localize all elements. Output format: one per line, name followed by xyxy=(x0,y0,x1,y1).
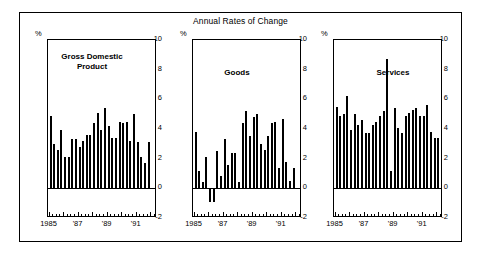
x-tick-major xyxy=(107,212,108,218)
x-tick-minor xyxy=(219,214,220,217)
bar xyxy=(437,138,439,188)
x-tick-minor xyxy=(288,214,289,217)
bar xyxy=(82,141,84,188)
x-tick-minor xyxy=(197,214,198,217)
x-tick-major xyxy=(92,212,93,218)
x-tick-minor xyxy=(277,214,278,217)
bar xyxy=(434,138,436,188)
bar xyxy=(357,125,359,189)
bar xyxy=(441,114,442,188)
x-tick-minor xyxy=(212,214,213,217)
x-tick-label: '87 xyxy=(351,219,377,228)
x-tick-minor xyxy=(414,214,415,217)
bar xyxy=(282,119,284,189)
x-tick-minor xyxy=(70,214,71,217)
x-tick-minor xyxy=(114,214,115,217)
x-tick-minor xyxy=(338,214,339,217)
x-tick-major xyxy=(335,212,336,218)
bar xyxy=(253,117,255,188)
x-tick-minor xyxy=(59,214,60,217)
bar xyxy=(271,123,273,188)
x-tick-major xyxy=(136,212,137,218)
x-tick-minor xyxy=(233,214,234,217)
bar xyxy=(220,176,222,188)
x-tick-minor xyxy=(429,214,430,217)
x-tick-minor xyxy=(244,214,245,217)
bar xyxy=(133,114,135,188)
bar xyxy=(339,116,341,189)
bar xyxy=(278,168,280,189)
bar xyxy=(137,142,139,188)
bar xyxy=(343,114,345,188)
x-tick-minor xyxy=(154,214,155,217)
bar xyxy=(423,116,425,189)
x-tick-minor xyxy=(132,214,133,217)
bar xyxy=(57,150,59,189)
bar xyxy=(336,107,338,189)
bar xyxy=(430,132,432,188)
x-tick-minor xyxy=(143,214,144,217)
x-tick-minor xyxy=(56,214,57,217)
bar xyxy=(202,182,204,188)
bar xyxy=(227,165,229,189)
bar xyxy=(238,182,240,188)
bar-series xyxy=(193,40,300,216)
bar xyxy=(50,116,52,189)
x-tick-minor xyxy=(147,214,148,217)
x-tick-major xyxy=(364,212,365,218)
bar xyxy=(267,136,269,188)
x-tick-minor xyxy=(74,214,75,217)
plot-area xyxy=(333,39,442,217)
x-tick-label: 1985 xyxy=(322,219,348,228)
x-tick-major xyxy=(436,212,437,218)
bar xyxy=(368,133,370,188)
panel-label-services: Services xyxy=(358,68,428,78)
bar xyxy=(401,133,403,188)
x-tick-minor xyxy=(230,214,231,217)
bar xyxy=(245,111,247,188)
x-tick-label: 1985 xyxy=(181,219,207,228)
x-tick-minor xyxy=(400,214,401,217)
x-tick-major xyxy=(393,212,394,218)
bar xyxy=(115,138,117,188)
x-tick-minor xyxy=(81,214,82,217)
x-tick-major xyxy=(208,212,209,218)
x-tick-minor xyxy=(284,214,285,217)
x-tick-minor xyxy=(389,214,390,217)
bar xyxy=(249,136,251,188)
x-tick-minor xyxy=(204,214,205,217)
bar xyxy=(274,122,276,189)
bar xyxy=(260,144,262,189)
bar xyxy=(372,125,374,189)
x-tick-label: '91 xyxy=(409,219,435,228)
bar xyxy=(289,181,291,188)
bar xyxy=(234,153,236,189)
x-tick-major xyxy=(121,212,122,218)
x-tick-minor xyxy=(440,214,441,217)
x-tick-minor xyxy=(356,214,357,217)
x-tick-minor xyxy=(88,214,89,217)
bar xyxy=(397,128,399,189)
bar xyxy=(405,116,407,189)
panel-label-gdp: Gross Domestic Product xyxy=(44,52,140,72)
bar xyxy=(64,157,66,188)
x-tick-minor xyxy=(67,214,68,217)
bar xyxy=(231,153,233,189)
x-tick-minor xyxy=(425,214,426,217)
x-tick-minor xyxy=(263,214,264,217)
x-tick-minor xyxy=(299,214,300,217)
bar xyxy=(386,59,388,188)
x-tick-major xyxy=(252,212,253,218)
x-tick-minor xyxy=(52,214,53,217)
x-tick-minor xyxy=(374,214,375,217)
x-tick-minor xyxy=(270,214,271,217)
bar-series xyxy=(334,40,441,216)
x-tick-minor xyxy=(382,214,383,217)
x-tick-minor xyxy=(125,214,126,217)
bar xyxy=(256,114,258,188)
x-tick-major xyxy=(223,212,224,218)
bar xyxy=(216,151,218,188)
x-tick-label: '91 xyxy=(268,219,294,228)
bar xyxy=(365,133,367,188)
x-tick-major xyxy=(78,212,79,218)
